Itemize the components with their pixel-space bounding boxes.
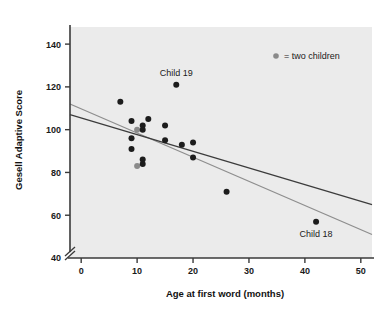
y-tick-label: 80 — [51, 168, 61, 178]
x-tick-label: 0 — [79, 266, 84, 276]
data-point — [129, 146, 135, 152]
data-point — [117, 99, 123, 105]
legend-group: = two children — [273, 51, 340, 61]
data-point — [140, 161, 146, 167]
annotation-child-18: Child 18 — [300, 229, 333, 239]
scatter-plot-figure: 01020304050 406080100120140 Child 19Chil… — [0, 0, 392, 312]
data-point — [224, 189, 230, 195]
data-point — [179, 142, 185, 148]
data-point — [190, 154, 196, 160]
x-tick-label: 30 — [244, 266, 254, 276]
y-tick-label: 100 — [46, 125, 61, 135]
plot-canvas: 01020304050 406080100120140 Child 19Chil… — [0, 0, 392, 312]
plot-area-background — [70, 27, 372, 258]
x-tick-label: 50 — [356, 266, 366, 276]
legend-label-two-children: = two children — [284, 51, 340, 61]
data-point — [162, 137, 168, 143]
data-point — [129, 118, 135, 124]
y-tick-label: 60 — [51, 211, 61, 221]
x-tick-label: 40 — [300, 266, 310, 276]
y-tick-label: 40 — [51, 253, 61, 263]
y-tick-label: 120 — [46, 82, 61, 92]
x-tick-label: 20 — [188, 266, 198, 276]
data-point — [173, 82, 179, 88]
y-tick-label: 140 — [46, 40, 61, 50]
data-point — [190, 140, 196, 146]
legend-marker-two-children — [273, 53, 279, 59]
x-tick-label: 10 — [132, 266, 142, 276]
annotation-child-19: Child 19 — [160, 68, 193, 78]
data-point — [145, 116, 151, 122]
x-axis-title: Age at first word (months) — [166, 288, 284, 299]
data-point — [162, 122, 168, 128]
data-point-two-children — [134, 163, 140, 169]
y-axis-title: Gesell Adaptive Score — [13, 90, 24, 190]
plot-area — [70, 27, 372, 258]
data-point — [129, 135, 135, 141]
data-point — [140, 127, 146, 133]
data-point-two-children — [134, 127, 140, 133]
data-point — [313, 219, 319, 225]
